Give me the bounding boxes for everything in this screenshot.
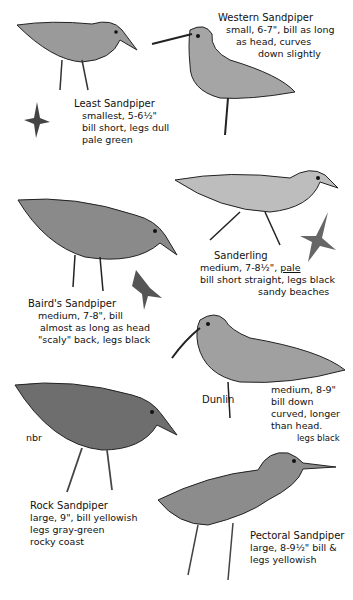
- pectoral-sandpiper-name: Pectoral Sandpiper: [250, 530, 344, 542]
- bairds-sandpiper-bill: almost as long as head: [28, 322, 150, 334]
- dunlin-label: medium, 8-9" bill down curved, longer th…: [271, 384, 340, 444]
- rock-sandpiper-name: Rock Sandpiper: [30, 500, 137, 512]
- rock-sandpiper-legs: legs gray-green: [30, 524, 137, 536]
- sanderling-habitat: sandy beaches: [200, 286, 335, 298]
- bairds-sandpiper-name: Baird's Sandpiper: [28, 298, 150, 310]
- pectoral-sandpiper-size: large, 8-9½" bill &: [250, 542, 344, 554]
- bairds-sandpiper-label: Baird's Sandpiper medium, 7-8", bill alm…: [28, 298, 150, 346]
- least-sandpiper-label: Least Sandpiper smallest, 5-6½" bill sho…: [74, 98, 169, 146]
- bairds-sandpiper-back: "scaly" back, legs black: [28, 334, 150, 346]
- dunlin-size: medium, 8-9": [271, 384, 340, 396]
- rock-sandpiper-label: Rock Sandpiper large, 9", bill yellowish…: [30, 500, 137, 548]
- dunlin-length: than head.: [271, 420, 340, 432]
- least-sandpiper-legs: pale green: [74, 134, 169, 146]
- pectoral-sandpiper-label: Pectoral Sandpiper large, 8-9½" bill & l…: [250, 530, 344, 566]
- sanderling-label: Sanderling medium, 7-8½", pale bill shor…: [200, 250, 335, 298]
- dunlin-bill: bill down: [271, 396, 340, 408]
- western-sandpiper-name: Western Sandpiper: [218, 12, 335, 24]
- signature: nbr: [26, 432, 42, 444]
- western-sandpiper-label: Western Sandpiper small, 6-7", bill as l…: [218, 12, 335, 60]
- least-sandpiper-flight-illustration: [22, 100, 52, 140]
- sanderling-bill: bill short straight, legs black: [200, 274, 335, 286]
- least-sandpiper-illustration: [12, 10, 142, 100]
- western-sandpiper-curve: down slightly: [218, 48, 335, 60]
- dunlin-name: Dunlin: [202, 394, 234, 406]
- least-sandpiper-size: smallest, 5-6½": [74, 110, 169, 122]
- least-sandpiper-name: Least Sandpiper: [74, 98, 169, 110]
- pectoral-sandpiper-legs: legs yellowish: [250, 554, 344, 566]
- dunlin-curve: curved, longer: [271, 408, 340, 420]
- rock-sandpiper-habitat: rocky coast: [30, 536, 137, 548]
- dunlin-name-label: Dunlin: [202, 394, 234, 406]
- sanderling-size: medium, 7-8½", pale: [200, 262, 335, 274]
- sanderling-name: Sanderling: [200, 250, 335, 262]
- bairds-sandpiper-size: medium, 7-8", bill: [28, 310, 150, 322]
- rock-sandpiper-size: large, 9", bill yellowish: [30, 512, 137, 524]
- least-sandpiper-bill: bill short, legs dull: [74, 122, 169, 134]
- dunlin-legs: legs black: [271, 432, 340, 444]
- western-sandpiper-size: small, 6-7", bill as long: [218, 24, 335, 36]
- western-sandpiper-bill: as head, curves: [218, 36, 335, 48]
